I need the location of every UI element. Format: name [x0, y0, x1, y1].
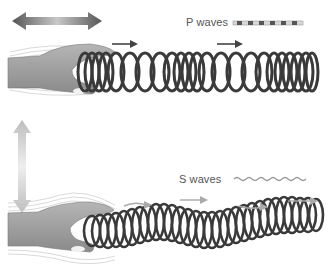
diagram-canvas [0, 0, 332, 273]
s-wave-panel [8, 120, 323, 264]
seismic-wave-diagram: P waves S waves [0, 0, 332, 273]
s-waves-label: S waves [179, 173, 221, 185]
s-wave-legend-symbol [234, 178, 306, 181]
vertical-double-arrow-icon [13, 120, 31, 213]
spring-coil-p [78, 53, 318, 91]
horizontal-double-arrow-icon [12, 12, 102, 30]
p-wave-panel [8, 12, 318, 95]
p-wave-legend-symbol [233, 21, 303, 25]
p-waves-label: P waves [186, 16, 228, 28]
direction-arrow-icon [112, 40, 243, 48]
spring-coil-s [84, 197, 323, 248]
